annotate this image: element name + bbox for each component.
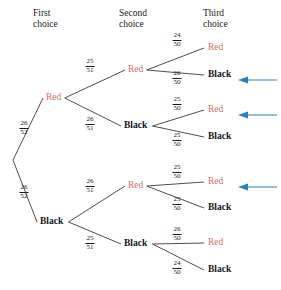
node-rbr-red: Red	[208, 105, 223, 115]
fraction-denominator: 51	[86, 243, 95, 252]
fraction-numerator: 25	[86, 58, 95, 66]
probability-rrb: 2650	[173, 70, 182, 86]
fraction-numerator: 26	[20, 184, 29, 192]
node-bb-black: Black	[124, 239, 147, 249]
node-rrb-black: Black	[208, 70, 231, 80]
fraction-denominator: 50	[173, 268, 182, 277]
edge-RR-RRR	[147, 48, 204, 70]
probability-rb: 2651	[86, 116, 95, 132]
fraction-denominator: 50	[173, 78, 182, 87]
highlight-arrow-rrb	[238, 71, 277, 80]
probability-bbr: 2650	[173, 226, 182, 242]
fraction-numerator: 25	[173, 164, 182, 172]
node-bbb-black: Black	[208, 265, 231, 275]
column-header-3: Third choice	[203, 8, 228, 29]
probability-rrr: 2450	[173, 32, 182, 48]
fraction-denominator: 51	[86, 66, 95, 75]
probability-br: 2651	[86, 178, 95, 194]
fraction-denominator: 50	[173, 40, 182, 49]
fraction-denominator: 50	[173, 234, 182, 243]
probability-b: 2652	[20, 184, 29, 200]
node-b-black: Black	[40, 217, 63, 227]
probability-rbr: 2550	[173, 96, 182, 112]
fraction-denominator: 52	[20, 192, 29, 201]
fraction-denominator: 51	[86, 186, 95, 195]
edge-B-BB	[69, 222, 122, 244]
fraction-denominator: 50	[173, 104, 182, 113]
node-r-red: Red	[46, 93, 61, 103]
highlight-arrow-brr	[238, 178, 277, 187]
probability-rr: 2551	[86, 58, 95, 74]
node-bbr-red: Red	[208, 238, 223, 248]
fraction-denominator: 50	[173, 172, 182, 181]
node-brr-red: Red	[208, 177, 223, 187]
edge-R-RR	[65, 70, 125, 98]
fraction-numerator: 26	[173, 226, 182, 234]
edge-BR-BRR	[147, 182, 204, 186]
fraction-numerator: 26	[86, 178, 95, 186]
fraction-numerator: 24	[173, 260, 182, 268]
probability-r: 2652	[20, 120, 29, 136]
highlight-arrow-rbr	[238, 106, 277, 115]
fraction-numerator: 26	[86, 116, 95, 124]
probability-rbb: 2550	[173, 132, 182, 148]
node-br-red: Red	[128, 181, 143, 191]
fraction-numerator: 25	[86, 235, 95, 243]
node-rbb-black: Black	[208, 132, 231, 142]
probability-tree-diagram: First choiceSecond choiceThird choice 26…	[0, 0, 281, 290]
probability-bb: 2551	[86, 235, 95, 251]
node-rb-black: Black	[124, 121, 147, 131]
edge-RB-RBR	[153, 110, 205, 126]
probability-brr: 2550	[173, 164, 182, 180]
column-header-1: First choice	[33, 8, 58, 29]
fraction-numerator: 26	[20, 120, 29, 128]
fraction-numerator: 25	[173, 196, 182, 204]
column-header-2: Second choice	[119, 8, 147, 29]
fraction-denominator: 50	[173, 204, 182, 213]
edge-B-BR	[69, 186, 126, 222]
fraction-denominator: 52	[20, 128, 29, 137]
fraction-denominator: 50	[173, 140, 182, 149]
fraction-numerator: 25	[173, 132, 182, 140]
node-rrr-red: Red	[208, 43, 223, 53]
probability-bbb: 2450	[173, 260, 182, 276]
probability-brb: 2550	[173, 196, 182, 212]
fraction-numerator: 26	[173, 70, 182, 78]
fraction-denominator: 51	[86, 124, 95, 133]
edge-BB-BBR	[153, 243, 205, 244]
node-brb-black: Black	[208, 203, 231, 213]
node-rr-red: Red	[128, 65, 143, 75]
fraction-numerator: 24	[173, 32, 182, 40]
fraction-numerator: 25	[173, 96, 182, 104]
